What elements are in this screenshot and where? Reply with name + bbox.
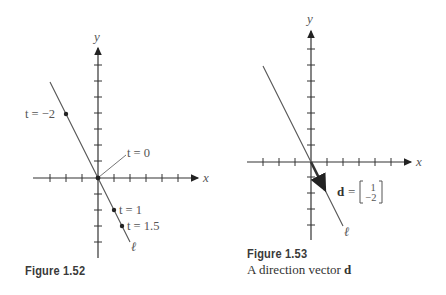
vector-name: d [337, 184, 345, 199]
point-t-1 [112, 208, 116, 212]
figure-1-52-plot: y x t = −2 t = 0 t = 1 t = 1.5 ℓ [25, 29, 209, 258]
point-t-1-5 [120, 224, 124, 228]
vector-equals: = [348, 184, 355, 199]
figures-canvas: y x t = −2 t = 0 t = 1 t = 1.5 ℓ y x ℓ d… [0, 0, 446, 295]
figure-1-53-title: Figure 1.53 [247, 246, 307, 261]
vector-component-2: −2 [365, 192, 376, 203]
label-t-0: t = 0 [127, 146, 150, 160]
point-t-minus-2 [64, 112, 68, 116]
line-l-label: ℓ [131, 239, 137, 254]
figure-1-53-caption: A direction vector d [247, 262, 351, 278]
line-l-label: ℓ [344, 224, 350, 239]
y-axis-label: y [92, 29, 100, 44]
caption-text: A direction vector [247, 262, 344, 277]
caption-bold-d: d [344, 262, 351, 277]
y-axis-label: y [305, 11, 313, 26]
right-bracket [379, 181, 382, 203]
label-t-minus-2: t = −2 [25, 107, 55, 121]
figure-1-53-plot: y x ℓ d = 1 −2 [247, 11, 422, 240]
x-axis-label: x [202, 170, 209, 185]
label-t-1-5: t = 1.5 [127, 219, 159, 233]
line-l [263, 66, 343, 226]
figure-1-52-title: Figure 1.52 [25, 263, 85, 278]
x-axis-label: x [415, 154, 422, 169]
direction-vector-d [311, 162, 325, 190]
label-t-1: t = 1 [119, 203, 142, 217]
left-bracket [360, 181, 363, 203]
point-t-0 [96, 176, 101, 181]
t0-leader [99, 155, 126, 177]
